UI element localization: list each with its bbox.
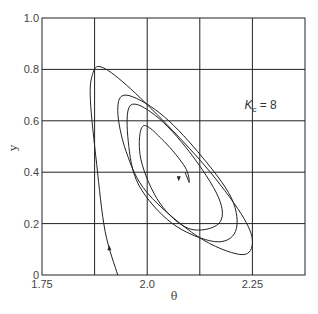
y-tick-label: 0.6 [24,115,39,127]
y-tick-label: 0.2 [24,218,39,230]
annotation-value: = 8 [256,98,277,112]
grid-lines [42,18,305,275]
y-tick-label: 0.4 [24,166,39,178]
y-tick-label: 1.0 [24,12,39,24]
direction-arrows [107,176,180,250]
x-tick-label: 2.0 [140,278,155,290]
x-axis-label: θ [171,290,178,303]
y-tick-label: 0 [33,269,39,281]
x-tick-labels: 1.752.02.25 [31,278,263,290]
y-tick-label: 0.8 [24,63,39,75]
phase-plot: 1.752.02.25 00.20.40.60.81.0 θ y Kc = 8 [0,0,318,314]
y-tick-labels: 00.20.40.60.81.0 [24,12,39,281]
arrow-icon [177,176,181,181]
trajectory-curve [90,66,252,275]
x-tick-label: 2.25 [242,278,263,290]
gain-annotation: Kc = 8 [244,98,277,114]
plot-frame [42,18,305,275]
y-axis-label: y [7,144,20,152]
arrow-icon [107,245,111,250]
